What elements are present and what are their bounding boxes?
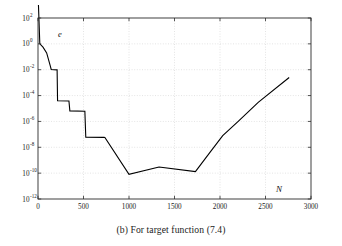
x-tick-label: 0 (36, 203, 40, 211)
y-tick-label: 10-12 (22, 193, 37, 204)
svg-text:10: 10 (22, 66, 30, 74)
x-tick-label: 1500 (167, 203, 182, 211)
svg-text:10: 10 (22, 196, 30, 204)
svg-text:-4: -4 (30, 89, 35, 95)
x-tick-label: 1000 (122, 203, 137, 211)
svg-text:0: 0 (30, 37, 33, 43)
svg-text:-6: -6 (30, 115, 35, 121)
x-axis-label-N: N (275, 184, 283, 194)
svg-text:10: 10 (22, 118, 30, 126)
figure-container: 050010001500200025003000 10210010-210-41… (0, 0, 342, 246)
x-axis-tick-labels: 050010001500200025003000 (36, 203, 318, 211)
x-tick-label: 500 (78, 203, 89, 211)
svg-text:-2: -2 (30, 63, 35, 69)
svg-text:10: 10 (22, 170, 30, 178)
x-tick-label: 2000 (213, 203, 228, 211)
x-tick-label: 3000 (304, 203, 319, 211)
y-tick-label: 100 (22, 37, 33, 48)
svg-text:10: 10 (22, 40, 30, 48)
y-tick-label: 102 (22, 12, 33, 23)
x-tick-label: 2500 (258, 203, 273, 211)
y-axis-label-e: e (58, 29, 62, 39)
y-tick-label: 10-8 (22, 141, 34, 152)
svg-text:2: 2 (30, 12, 33, 18)
y-tick-label: 10-4 (22, 89, 34, 100)
figure-caption: (b) For target function (7.4) (0, 224, 342, 235)
y-tick-label: 10-6 (22, 115, 34, 126)
svg-text:10: 10 (22, 144, 30, 152)
svg-text:-10: -10 (30, 167, 37, 173)
y-axis-tick-labels: 10210010-210-410-610-810-1010-12 (22, 12, 37, 204)
y-tick-label: 10-10 (22, 167, 37, 178)
y-tick-label: 10-2 (22, 63, 34, 74)
error-vs-N-semilog-chart: 050010001500200025003000 10210010-210-41… (0, 0, 342, 246)
svg-text:10: 10 (22, 15, 30, 23)
svg-text:-8: -8 (30, 141, 35, 147)
svg-text:10: 10 (22, 92, 30, 100)
svg-text:-12: -12 (30, 193, 37, 199)
